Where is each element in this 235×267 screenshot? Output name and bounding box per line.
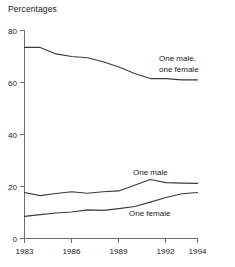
series-label-one-male: One male <box>133 168 168 177</box>
x-tick-label-1989: 1989 <box>110 247 128 256</box>
y-tick-label-40: 40 <box>8 131 17 140</box>
y-tick-label-0: 0 <box>13 235 18 244</box>
x-tick-label-1986: 1986 <box>63 247 81 256</box>
series-line-one-male <box>25 179 198 195</box>
x-tick-label-1992: 1992 <box>157 247 175 256</box>
series-line-one-female <box>25 192 198 216</box>
x-tick-label-1994: 1994 <box>189 247 207 256</box>
y-tick-label-20: 20 <box>8 183 17 192</box>
y-tick-label-60: 60 <box>8 79 17 88</box>
line-chart-plot: 80 60 40 20 0 1983 1986 1989 1992 1994 O… <box>0 0 235 267</box>
series-label-one-male-one-female-line1: One male, <box>159 54 196 63</box>
chart-container: Percentages 80 60 40 20 0 1983 1986 1989… <box>0 0 235 267</box>
x-tick-label-1983: 1983 <box>16 247 34 256</box>
series-label-one-male-one-female-line2: one female <box>159 65 199 74</box>
series-line-one-male-one-female <box>25 47 198 80</box>
y-tick-label-80: 80 <box>8 27 17 36</box>
series-label-one-female: One female <box>129 209 171 218</box>
